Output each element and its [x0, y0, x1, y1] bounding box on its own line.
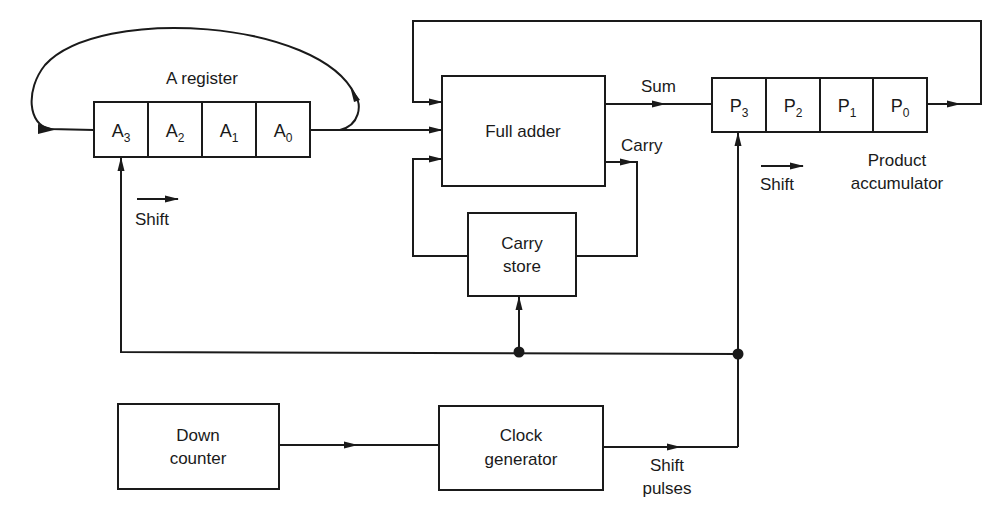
carry-store: Carry store — [468, 213, 576, 296]
carry-store-label-2: store — [503, 257, 541, 276]
clock-generator-label-2: generator — [485, 450, 558, 469]
p-shift-label: Shift — [760, 175, 794, 194]
junction-dot — [514, 347, 525, 358]
down-counter-label-1: Down — [176, 426, 219, 445]
product-accumulator: P3 P2 P1 P0 Shift Product accumulator — [712, 78, 944, 194]
product-accumulator-title-1: Product — [868, 151, 927, 170]
a-register: A register A3 A2 A1 A0 Shift — [94, 69, 310, 229]
full-adder: Full adder — [442, 76, 605, 186]
carry-signal-label: Carry — [621, 136, 663, 155]
clock-generator-box — [439, 406, 603, 490]
shift-pulse-bus — [121, 133, 744, 447]
product-accumulator-title-2: accumulator — [851, 174, 944, 193]
down-counter-box — [118, 404, 279, 489]
a-register-title: A register — [166, 69, 238, 88]
carry-store-box — [468, 213, 576, 296]
sum-signal-label: Sum — [641, 77, 676, 96]
junction-dot — [733, 349, 744, 360]
down-counter-label-2: counter — [170, 449, 227, 468]
shift-pulses-label-2: pulses — [642, 479, 691, 498]
arc-arrowhead-right-icon — [38, 124, 56, 134]
full-adder-label: Full adder — [485, 122, 561, 141]
arc-arrowhead-down-icon — [350, 86, 360, 102]
clock-generator-label-1: Clock — [500, 426, 543, 445]
carry-store-label-1: Carry — [501, 234, 543, 253]
a-shift-label: Shift — [135, 210, 169, 229]
shift-pulses-label-1: Shift — [650, 456, 684, 475]
multiplier-block-diagram: A register A3 A2 A1 A0 Shift Full adder … — [0, 0, 1007, 526]
down-counter: Down counter — [118, 404, 279, 489]
clock-generator: Clock generator — [439, 406, 603, 490]
